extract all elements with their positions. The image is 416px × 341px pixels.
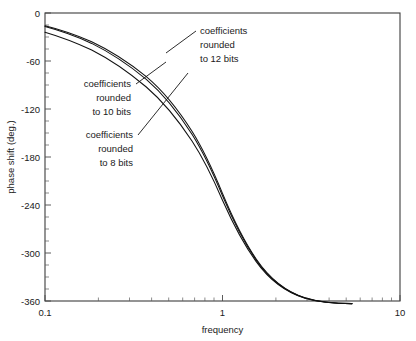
y-axis-title: phase shift (deg.) (5, 120, 16, 193)
annot-12bit-line-3: to 12 bits (200, 53, 239, 64)
phase-shift-chart: 0 -60 -120 -180 -240 -300 -360 phase shi… (0, 0, 416, 341)
y-tick-label-120: -120 (21, 104, 40, 115)
chart-background (0, 0, 416, 341)
annot-8bit-line-3: to 8 bits (100, 157, 134, 168)
y-tick-label-240: -240 (21, 200, 40, 211)
x-tick-label-0-1: 0.1 (38, 307, 51, 318)
annot-10bit-line-3: to 10 bits (92, 106, 131, 117)
x-tick-label-10: 10 (395, 307, 406, 318)
y-tick-label-180: -180 (21, 152, 40, 163)
x-axis-title: frequency (202, 324, 244, 335)
y-tick-label-60: -60 (26, 56, 40, 67)
annot-10bit-line-1: coefficients (84, 78, 132, 89)
y-tick-label-0: 0 (35, 8, 40, 19)
annot-12bit-line-2: rounded (200, 39, 235, 50)
y-tick-label-360: -360 (21, 296, 40, 307)
annot-10bit-line-2: rounded (96, 92, 131, 103)
annot-12bit-line-1: coefficients (200, 25, 248, 36)
annot-8bit-line-2: rounded (98, 143, 133, 154)
x-tick-label-1: 1 (220, 307, 225, 318)
y-tick-label-300: -300 (21, 248, 40, 259)
annot-8bit-line-1: coefficients (86, 129, 134, 140)
